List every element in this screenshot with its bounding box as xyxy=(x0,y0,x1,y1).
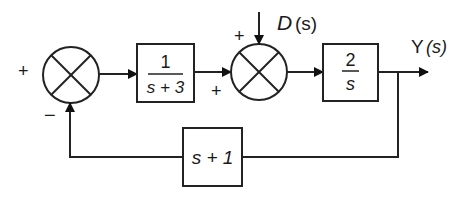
block-diagram: + − 1 s + 3 + + D (s) 2 s Y (s) s + 1 xyxy=(0,0,466,197)
sum2-top-plus-sign: + xyxy=(234,26,245,46)
g1-denominator: s + 3 xyxy=(147,78,185,97)
g2-denominator: s xyxy=(346,74,355,94)
disturbance-label-arg: (s) xyxy=(295,13,317,34)
sum1-plus-sign: + xyxy=(18,61,29,81)
h-label: s + 1 xyxy=(192,147,234,168)
summing-junction-2 xyxy=(231,44,287,100)
g1-numerator: 1 xyxy=(160,52,170,72)
sum1-minus-sign: − xyxy=(44,104,56,126)
sum2-left-plus-sign: + xyxy=(211,81,222,101)
summing-junction-1 xyxy=(43,47,99,103)
feedback-line-left xyxy=(70,103,183,157)
output-label-name: Y xyxy=(411,36,424,57)
disturbance-label-name: D xyxy=(277,11,292,34)
output-label-arg: (s) xyxy=(426,37,447,57)
g2-numerator: 2 xyxy=(345,50,355,70)
